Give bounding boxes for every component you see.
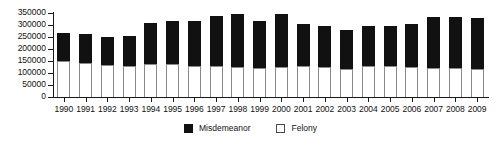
x-axis-tick-mark <box>86 98 87 102</box>
bar-segment-felony <box>384 66 397 97</box>
bar-segment-misdemeanor <box>253 21 266 69</box>
bar-group <box>253 21 266 97</box>
bar-segment-misdemeanor <box>166 21 179 64</box>
bar-group <box>144 23 157 97</box>
x-axis-tick-label: 2004 <box>359 104 378 114</box>
bar-group <box>471 18 484 97</box>
bar-segment-misdemeanor <box>471 18 484 69</box>
x-axis-tick-label: 1992 <box>98 104 117 114</box>
legend-item[interactable]: Misdemeanor <box>184 124 251 133</box>
x-axis-tick-mark <box>129 98 130 102</box>
bar-group <box>188 21 201 97</box>
x-axis-tick-mark <box>390 98 391 102</box>
x-axis-tick-label: 2003 <box>337 104 356 114</box>
bar-segment-misdemeanor <box>144 23 157 64</box>
bar-segment-felony <box>253 68 266 97</box>
x-axis-line <box>53 97 489 98</box>
bar-segment-felony <box>471 69 484 97</box>
legend-item[interactable]: Felony <box>276 124 317 133</box>
hollow-square-icon <box>276 124 285 133</box>
bar-segment-felony <box>362 66 375 97</box>
x-axis-tick-mark <box>238 98 239 102</box>
x-axis-tick-mark <box>412 98 413 102</box>
x-axis-tick-label: 1995 <box>163 104 182 114</box>
x-axis-tick-mark <box>325 98 326 102</box>
bar-segment-misdemeanor <box>340 30 353 69</box>
bar-segment-misdemeanor <box>79 34 92 62</box>
bar-segment-felony <box>449 68 462 97</box>
x-axis-tick-label: 1993 <box>120 104 139 114</box>
bar-group <box>427 17 440 97</box>
x-axis-tick-label: 1996 <box>185 104 204 114</box>
x-axis-tick-label: 2007 <box>424 104 443 114</box>
bar-group <box>384 26 397 97</box>
stacked-bar-chart: 0500001000001500002000002500003000003500… <box>0 0 501 145</box>
bar-segment-misdemeanor <box>362 26 375 66</box>
bar-group <box>210 16 223 97</box>
y-axis-tick-label: 300000 <box>18 20 46 29</box>
x-axis-tick-mark <box>64 98 65 102</box>
bar-group <box>297 24 310 97</box>
x-axis-tick-mark <box>173 98 174 102</box>
x-axis-tick-mark <box>368 98 369 102</box>
x-axis-tick-label: 2008 <box>446 104 465 114</box>
bar-group <box>166 21 179 97</box>
bar-group <box>231 13 244 97</box>
bar-segment-felony <box>231 67 244 97</box>
x-axis-tick-label: 1998 <box>228 104 247 114</box>
y-axis-tick-label: 200000 <box>18 44 46 53</box>
bar-segment-misdemeanor <box>57 33 70 61</box>
bar-segment-misdemeanor <box>405 24 418 67</box>
x-axis-tick-label: 1990 <box>54 104 73 114</box>
bar-segment-felony <box>405 67 418 97</box>
bar-group <box>318 26 331 97</box>
x-axis-tick-label: 1994 <box>141 104 160 114</box>
x-axis-tick-mark <box>281 98 282 102</box>
plot-area <box>53 13 488 97</box>
bar-segment-misdemeanor <box>275 14 288 67</box>
y-axis-tick-label: 150000 <box>18 56 46 65</box>
x-axis-tick-mark <box>107 98 108 102</box>
bar-segment-misdemeanor <box>318 26 331 67</box>
bar-group <box>57 33 70 97</box>
y-axis-tick-label: 100000 <box>18 68 46 77</box>
bar-segment-felony <box>275 67 288 97</box>
bar-group <box>275 14 288 97</box>
bar-segment-felony <box>188 66 201 97</box>
x-axis-tick-mark <box>477 98 478 102</box>
x-axis-tick-mark <box>347 98 348 102</box>
bar-segment-felony <box>297 66 310 97</box>
x-axis-tick-mark <box>216 98 217 102</box>
bar-group <box>340 30 353 97</box>
bar-segment-misdemeanor <box>101 37 114 65</box>
bar-segment-felony <box>123 66 136 97</box>
y-axis-tick-label: 0 <box>41 92 46 101</box>
bar-group <box>101 37 114 97</box>
bar-group <box>79 34 92 97</box>
bar-segment-felony <box>101 65 114 97</box>
bar-segment-misdemeanor <box>210 16 223 66</box>
bar-segment-felony <box>144 64 157 97</box>
x-axis-tick-label: 1999 <box>250 104 269 114</box>
y-axis-tick-label: 350000 <box>18 8 46 17</box>
x-axis-tick-label: 2002 <box>315 104 334 114</box>
x-axis-tick-mark <box>260 98 261 102</box>
x-axis-tick-label: 2000 <box>272 104 291 114</box>
x-axis-tick-mark <box>151 98 152 102</box>
bar-segment-felony <box>79 63 92 97</box>
x-axis-tick-label: 2006 <box>402 104 421 114</box>
bar-segment-misdemeanor <box>449 17 462 67</box>
legend-item-label: Misdemeanor <box>199 124 251 133</box>
x-axis-tick-label: 1991 <box>76 104 95 114</box>
bar-segment-felony <box>340 69 353 97</box>
bar-segment-misdemeanor <box>231 14 244 67</box>
x-axis-tick-mark <box>303 98 304 102</box>
bar-group <box>123 36 136 97</box>
bar-segment-misdemeanor <box>123 36 136 67</box>
y-axis-tick-label: 50000 <box>22 80 46 89</box>
bar-segment-felony <box>210 66 223 97</box>
x-axis-tick-label: 2001 <box>294 104 313 114</box>
x-axis-tick-label: 2009 <box>468 104 487 114</box>
bar-group <box>405 24 418 97</box>
bar-segment-misdemeanor <box>188 21 201 65</box>
